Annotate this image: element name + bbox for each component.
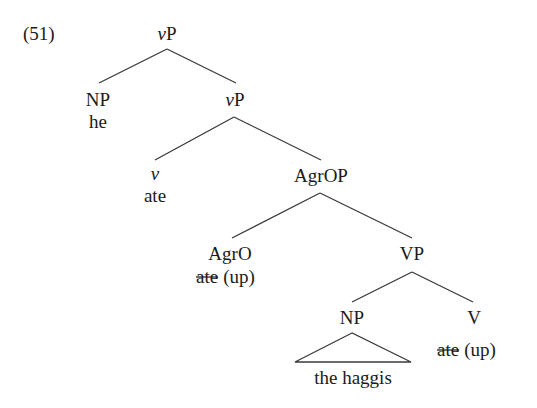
node-vp: VP — [400, 243, 424, 264]
node-root-p: P — [166, 23, 177, 44]
node-agro: AgrO — [208, 243, 251, 264]
edge-agrop-vp — [320, 193, 412, 238]
word-he: he — [89, 111, 107, 132]
node-v-head: v — [151, 163, 160, 184]
edge-root-vp2 — [167, 49, 236, 83]
word-the-haggis: the haggis — [314, 367, 392, 388]
edge-root-spec — [99, 49, 167, 83]
example-number: (51) — [23, 23, 55, 45]
node-vp2-p: P — [234, 89, 245, 110]
agro-particle: (up) — [223, 266, 255, 288]
word-ate: ate — [144, 185, 166, 206]
edge-agrop-agro — [232, 193, 320, 238]
node-agrop: AgrOP — [294, 165, 348, 186]
edge-vp2-v — [155, 117, 234, 160]
verb-particle: (up) — [464, 339, 496, 361]
edge-vp2-agrop — [234, 117, 321, 160]
node-spec-np: NP — [86, 89, 110, 110]
node-root-vp: vP — [157, 23, 176, 44]
syntax-tree: (51) vP NP he vP v ate AgrOP AgrO ate(up… — [0, 0, 537, 408]
edge-vp-v — [412, 272, 473, 302]
edge-vp-np — [352, 272, 412, 302]
node-vp2: vP — [225, 89, 244, 110]
node-object-np: NP — [340, 307, 364, 328]
node-verb: V — [467, 307, 481, 328]
triangle-object — [295, 333, 411, 362]
